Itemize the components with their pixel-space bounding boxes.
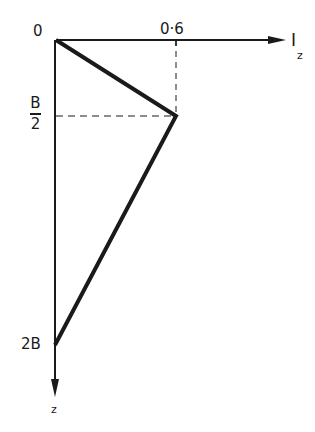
b-half-numerator: B	[30, 96, 40, 111]
y-tick-label-b-half: B 2	[30, 96, 41, 132]
influence-profile-line	[55, 40, 176, 345]
origin-label: 0	[33, 24, 43, 39]
z-axis-arrowhead-icon	[51, 379, 59, 397]
diagram-canvas	[0, 0, 315, 432]
b-half-denominator: 2	[31, 117, 41, 132]
y-tick-label-2b: 2B	[21, 337, 41, 352]
x-tick-label-0-6: 0·6	[160, 22, 184, 37]
z-axis-label: z	[51, 404, 57, 415]
x-axis-label-subscript: z	[297, 50, 303, 61]
x-axis-label: I	[291, 32, 296, 49]
x-axis-arrowhead-icon	[268, 36, 286, 44]
